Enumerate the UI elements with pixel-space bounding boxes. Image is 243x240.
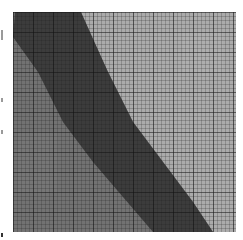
edge-artifact (1, 233, 3, 237)
edge-artifact (1, 130, 3, 134)
edge-artifact (1, 30, 3, 40)
edge-artifact (1, 98, 3, 102)
grid-image (13, 12, 236, 232)
grid-figure (13, 12, 236, 232)
